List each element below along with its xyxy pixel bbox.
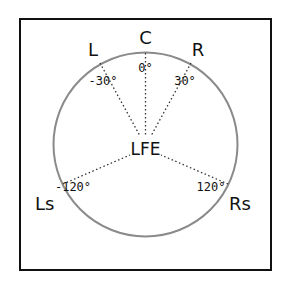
speaker-layout-diagram: C L R Ls Rs 0° -30° 30° -120° 120° LFE [0,0,283,286]
angle-label-l: -30° [89,74,118,88]
speaker-label-l: L [88,39,98,60]
angle-label-r: 30° [174,74,196,88]
speaker-label-ls: Ls [35,193,54,214]
speaker-label-rs: Rs [229,193,251,214]
angle-label-rs: 120° [197,180,226,194]
lfe-label: LFE [131,139,161,159]
speaker-label-c: C [139,27,152,48]
angle-label-c: 0° [138,61,152,75]
speaker-label-r: R [192,39,205,60]
angle-label-ls: -120° [55,180,91,194]
